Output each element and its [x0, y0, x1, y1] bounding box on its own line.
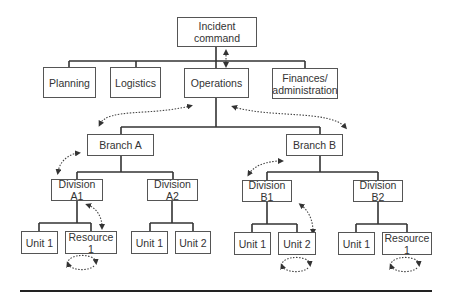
node-label: Resource 1: [383, 232, 431, 256]
node-finances-administration: Finances/ administration: [272, 68, 338, 99]
node-label: Resource 1: [66, 231, 116, 255]
node-division-b1: Division B1: [242, 180, 292, 202]
node-label: Incident command: [178, 20, 256, 44]
incident-command-diagram: Incident command Planning Logistics Oper…: [0, 0, 454, 297]
node-b1-unit1: Unit 1: [234, 232, 271, 255]
node-incident-command: Incident command: [177, 17, 257, 47]
node-planning: Planning: [43, 67, 96, 98]
node-label: Unit 1: [136, 237, 163, 249]
node-operations: Operations: [184, 68, 249, 98]
node-branch-b: Branch B: [286, 134, 343, 156]
node-label: Division B1: [243, 179, 291, 203]
node-b1-unit2: Unit 2: [278, 232, 316, 255]
self-loops: [68, 255, 419, 271]
node-a1-resource1: Resource 1: [65, 231, 117, 254]
node-label: Finances/ administration: [272, 72, 337, 96]
node-label: Division A2: [148, 178, 197, 202]
node-label: Branch B: [293, 139, 336, 151]
node-label: Division B2: [354, 179, 402, 203]
node-a1-unit1: Unit 1: [21, 231, 58, 254]
node-b2-resource1: Resource 1: [382, 232, 432, 255]
node-label: Unit 1: [26, 237, 53, 249]
node-label: Planning: [49, 77, 90, 89]
node-label: Logistics: [115, 77, 156, 89]
arrow-branch-a-division-a1: [58, 153, 78, 172]
node-division-b2: Division B2: [353, 180, 403, 202]
arrow-operations-branch-a: [100, 106, 190, 124]
node-label: Unit 2: [283, 238, 310, 250]
node-division-a1: Division A1: [51, 179, 103, 201]
node-logistics: Logistics: [110, 67, 161, 98]
node-division-a2: Division A2: [147, 179, 198, 201]
node-a2-unit2: Unit 2: [175, 231, 211, 254]
arrow-division-b1-unit2: [301, 205, 313, 232]
node-a2-unit1: Unit 1: [131, 231, 168, 254]
node-label: Unit 2: [179, 237, 206, 249]
node-label: Division A1: [52, 178, 102, 202]
node-label: Branch A: [99, 139, 142, 151]
arrow-operations-branch-b: [234, 107, 345, 127]
node-b2-unit1: Unit 1: [338, 232, 375, 255]
node-branch-a: Branch A: [87, 134, 154, 156]
node-label: Unit 1: [343, 238, 370, 250]
node-label: Operations: [191, 77, 242, 89]
node-label: Unit 1: [239, 238, 266, 250]
